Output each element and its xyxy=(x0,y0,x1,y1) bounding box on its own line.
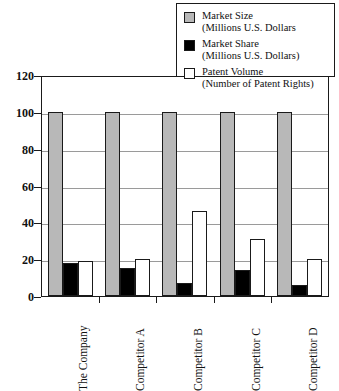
bar-market-share xyxy=(292,285,307,296)
chart-container: Market Size (Millions U.S. Dollars Marke… xyxy=(0,0,339,391)
bar-market-size xyxy=(105,112,120,296)
y-tick-mark xyxy=(34,260,41,261)
bar-patent-volume xyxy=(250,239,265,296)
bar-group xyxy=(105,77,150,296)
bar-market-size xyxy=(162,112,177,296)
bar-patent-volume xyxy=(192,211,207,296)
y-axis: 020406080100120 xyxy=(0,76,41,297)
y-tick-mark xyxy=(34,297,41,298)
legend-sublabel-market-size: (Millions U.S. Dollars xyxy=(202,22,296,33)
bar-market-share xyxy=(235,270,250,296)
white-swatch-icon xyxy=(184,68,195,79)
y-tick-label: 80 xyxy=(22,142,34,157)
x-tick-label: The Company xyxy=(74,303,92,391)
bar-patent-volume xyxy=(135,259,150,296)
y-tick-label: 40 xyxy=(22,216,34,231)
legend-item-market-share: Market Share (Millions U.S. Dollars) xyxy=(184,38,329,61)
legend-sublabel-patent-volume: (Number of Patent Rights) xyxy=(202,78,314,89)
legend-label-patent-volume: Patent Volume xyxy=(202,66,263,77)
plot-area xyxy=(41,76,329,297)
y-tick-label: 20 xyxy=(22,253,34,268)
x-tick-label: Competitor A xyxy=(131,303,149,391)
y-tick-mark xyxy=(34,187,41,188)
legend-item-market-size: Market Size (Millions U.S. Dollars xyxy=(184,10,329,33)
y-tick-label: 120 xyxy=(16,69,34,84)
y-tick-mark xyxy=(34,150,41,151)
y-tick-mark xyxy=(34,76,41,77)
y-tick-label: 60 xyxy=(22,179,34,194)
bar-groups xyxy=(42,77,328,296)
bar-group xyxy=(162,77,207,296)
bar-patent-volume xyxy=(307,259,322,296)
legend-sublabel-market-share: (Millions U.S. Dollars) xyxy=(202,50,299,61)
bar-market-size xyxy=(48,112,63,296)
legend-item-patent-volume: Patent Volume (Number of Patent Rights) xyxy=(184,66,329,89)
bar-market-share xyxy=(177,283,192,296)
bar-group xyxy=(48,77,93,296)
legend-label-market-share: Market Share xyxy=(202,38,259,49)
bar-group xyxy=(220,77,265,296)
x-tick-label: Competitor B xyxy=(189,303,207,391)
bar-market-size xyxy=(220,112,235,296)
bar-market-share xyxy=(63,263,78,296)
bar-group xyxy=(277,77,322,296)
x-axis-labels: The CompanyCompetitor ACompetitor BCompe… xyxy=(41,303,329,391)
legend-label-market-size: Market Size xyxy=(202,10,253,21)
gray-swatch-icon xyxy=(184,12,195,23)
bar-patent-volume xyxy=(78,261,93,296)
x-tick-label: Competitor C xyxy=(247,303,265,391)
y-tick-mark xyxy=(34,113,41,114)
y-tick-mark xyxy=(34,223,41,224)
chart-legend: Market Size (Millions U.S. Dollars Marke… xyxy=(176,3,335,77)
y-tick-label: 100 xyxy=(16,105,34,120)
black-swatch-icon xyxy=(184,40,195,51)
bar-market-share xyxy=(120,268,135,296)
x-tick-label: Competitor D xyxy=(304,303,322,391)
bar-market-size xyxy=(277,112,292,296)
